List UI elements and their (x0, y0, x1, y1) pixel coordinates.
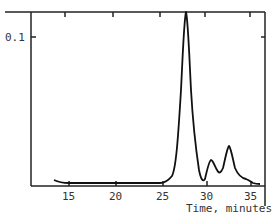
x-tick-label-25: 25 (156, 190, 169, 203)
x-axis-label: Time, minutes (186, 202, 272, 215)
chromatogram-chart: 0.1 15 20 25 30 35 Time, minutes (0, 0, 275, 217)
x-tick-label-15: 15 (62, 190, 75, 203)
y-tick-label-0.1: 0.1 (5, 31, 25, 44)
x-tick-label-20: 20 (109, 190, 122, 203)
chromatogram-trace (54, 12, 260, 184)
